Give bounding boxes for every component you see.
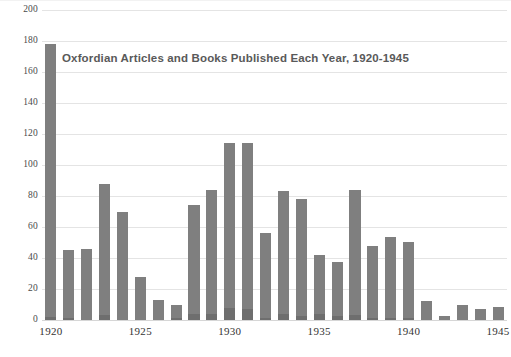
bar[interactable] <box>206 190 217 320</box>
bar-base-segment <box>206 314 217 320</box>
bar-base-segment <box>242 309 253 320</box>
bar[interactable] <box>188 205 199 320</box>
bar[interactable] <box>403 242 414 320</box>
y-axis-tick-label: 20 <box>4 284 38 294</box>
y-axis-tick-label: 180 <box>4 36 38 46</box>
bar-base-segment <box>63 318 74 320</box>
bar[interactable] <box>99 184 110 320</box>
y-axis-tick-label: 140 <box>4 98 38 108</box>
bar[interactable] <box>349 190 360 320</box>
bar[interactable] <box>439 316 450 320</box>
bar[interactable] <box>224 143 235 320</box>
bar-base-segment <box>296 316 307 320</box>
bar[interactable] <box>242 143 253 320</box>
x-axis-tick-label: 1920 <box>39 326 62 337</box>
bar-base-segment <box>314 314 325 320</box>
x-axis-tick-label: 1935 <box>308 326 331 337</box>
bar-base-segment <box>367 318 378 320</box>
bar[interactable] <box>314 255 325 320</box>
y-axis-tick-label: 0 <box>4 315 38 325</box>
bar[interactable] <box>385 237 396 320</box>
bar[interactable] <box>493 307 504 320</box>
bar[interactable] <box>475 309 486 320</box>
bar-slot <box>493 10 504 320</box>
bar-slot <box>421 10 432 320</box>
bar-base-segment <box>260 318 271 320</box>
bar-base-segment <box>99 315 110 320</box>
y-axis-tick-label: 100 <box>4 160 38 170</box>
top-edge-rule <box>0 0 511 1</box>
x-axis-tick-label: 1925 <box>129 326 152 337</box>
bar[interactable] <box>81 249 92 320</box>
bar-base-segment <box>349 315 360 320</box>
y-axis-tick-label: 200 <box>4 5 38 15</box>
bar[interactable] <box>153 300 164 320</box>
x-axis-tick-label: 1940 <box>397 326 420 337</box>
bar-slot <box>457 10 468 320</box>
bar-chart: 020406080100120140160180200 Oxfordian Ar… <box>0 0 511 357</box>
bar[interactable] <box>260 233 271 320</box>
bar[interactable] <box>421 301 432 320</box>
bar-base-segment <box>332 316 343 320</box>
bar[interactable] <box>63 250 74 320</box>
bar-base-segment <box>403 318 414 320</box>
y-axis-tick-label: 80 <box>4 191 38 201</box>
bar-slot <box>475 10 486 320</box>
bar-slot <box>439 10 450 320</box>
bar[interactable] <box>278 191 289 320</box>
bar-base-segment <box>188 314 199 320</box>
gridline <box>42 320 507 321</box>
y-axis: 020406080100120140160180200 <box>0 10 38 320</box>
bar[interactable] <box>135 277 146 320</box>
y-axis-tick-label: 160 <box>4 67 38 77</box>
bar-base-segment <box>278 314 289 320</box>
bar[interactable] <box>296 199 307 320</box>
bar-slot <box>45 10 56 320</box>
bar-base-segment <box>171 318 182 320</box>
chart-title: Oxfordian Articles and Books Published E… <box>62 52 409 64</box>
bar[interactable] <box>457 305 468 321</box>
bar[interactable] <box>367 246 378 320</box>
y-axis-tick-label: 60 <box>4 222 38 232</box>
x-axis-tick-label: 1930 <box>218 326 241 337</box>
y-axis-tick-label: 40 <box>4 253 38 263</box>
x-axis: 192019251930193519401945 <box>42 326 507 348</box>
bar[interactable] <box>45 44 56 320</box>
y-axis-tick-label: 120 <box>4 129 38 139</box>
bar-base-segment <box>224 308 235 320</box>
bar-base-segment <box>385 318 396 320</box>
bar-base-segment <box>45 317 56 320</box>
bar[interactable] <box>117 212 128 320</box>
x-axis-tick-label: 1945 <box>486 326 509 337</box>
bar[interactable] <box>332 262 343 320</box>
